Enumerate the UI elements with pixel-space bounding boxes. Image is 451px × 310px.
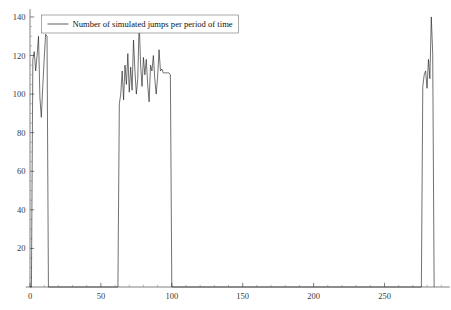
y-tick-label: 140 xyxy=(13,12,26,22)
series-path xyxy=(30,17,434,287)
chart-legend: Number of simulated jumps per period of … xyxy=(42,15,239,33)
legend-label: Number of simulated jumps per period of … xyxy=(73,19,233,29)
y-tick-label: 60 xyxy=(17,166,26,176)
data-series-group xyxy=(30,17,434,287)
x-tick-label: 50 xyxy=(97,291,106,301)
y-tick-label: 120 xyxy=(13,51,26,61)
y-tick-label: 40 xyxy=(17,205,26,215)
x-tick-label: 150 xyxy=(236,291,249,301)
x-tick-label: 0 xyxy=(28,291,32,301)
y-tick-label: 100 xyxy=(13,89,26,99)
line-chart: 050100150200250 20406080100120140 Number… xyxy=(0,0,451,310)
x-tick-label: 100 xyxy=(165,291,178,301)
chart-container: 050100150200250 20406080100120140 Number… xyxy=(0,0,451,310)
y-tick-label: 20 xyxy=(17,243,26,253)
y-axis: 20406080100120140 xyxy=(13,9,34,287)
x-tick-label: 200 xyxy=(307,291,320,301)
y-tick-label: 80 xyxy=(17,128,26,138)
x-axis: 050100150200250 xyxy=(26,283,450,301)
x-tick-label: 250 xyxy=(378,291,391,301)
